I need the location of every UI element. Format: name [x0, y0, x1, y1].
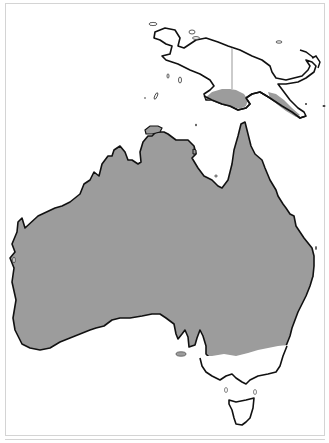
island	[179, 77, 182, 83]
island	[193, 37, 200, 40]
island	[149, 22, 157, 25]
island	[323, 105, 326, 107]
island	[195, 124, 197, 126]
tasmania	[229, 398, 254, 425]
island	[312, 275, 314, 277]
king-island	[225, 388, 228, 393]
island	[13, 257, 15, 263]
australia-mainland-range	[10, 122, 314, 360]
island	[144, 97, 146, 99]
kangaroo-island	[176, 352, 186, 356]
new-britain-east	[300, 50, 314, 58]
island	[167, 74, 169, 78]
island	[153, 92, 158, 99]
flinders-island	[254, 390, 257, 395]
island	[276, 41, 282, 43]
groote-island	[193, 149, 196, 154]
island	[305, 103, 307, 105]
distribution-map	[0, 0, 329, 443]
island	[189, 30, 195, 34]
island	[315, 246, 317, 250]
island	[215, 175, 217, 177]
